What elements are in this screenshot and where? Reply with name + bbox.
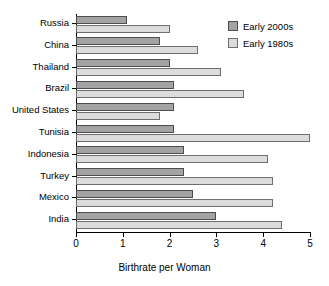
bar-early-1980s [76, 112, 160, 120]
x-axis-tick [123, 232, 124, 237]
x-axis-line [76, 232, 311, 233]
x-axis-tick [310, 232, 311, 237]
legend-item-early-1980s: Early 1980s [228, 36, 293, 50]
bar-group: Brazil [76, 79, 310, 101]
bar-early-1980s [76, 46, 198, 54]
legend-label-early-2000s: Early 2000s [243, 21, 293, 32]
chart-legend: Early 2000s Early 1980s [224, 15, 298, 54]
bar-early-2000s [76, 59, 170, 67]
bar-early-2000s [76, 146, 184, 154]
category-label: Indonesia [28, 148, 69, 159]
birthrate-bar-chart: RussiaChinaThailandBrazilUnited StatesTu… [0, 0, 329, 286]
category-label: Tunisia [39, 126, 69, 137]
bar-early-2000s [76, 190, 193, 198]
x-axis-tick [76, 232, 77, 237]
x-axis-tick-label: 3 [214, 238, 220, 250]
x-axis-tick [263, 232, 264, 237]
bar-early-1980s [76, 155, 268, 163]
x-axis-title: Birthrate per Woman [0, 262, 329, 273]
legend-label-early-1980s: Early 1980s [243, 38, 293, 49]
bar-early-2000s [76, 125, 174, 133]
x-axis-tick-label: 5 [307, 238, 313, 250]
x-axis-tick [216, 232, 217, 237]
bar-group: Tunisia [76, 123, 310, 145]
bar-early-2000s [76, 212, 216, 220]
x-axis-tick [170, 232, 171, 237]
category-label: China [44, 39, 69, 50]
bar-early-1980s [76, 25, 170, 33]
bar-group: India [76, 210, 310, 232]
x-axis-tick-label: 2 [167, 238, 173, 250]
category-label: Brazil [45, 82, 69, 93]
legend-item-early-2000s: Early 2000s [228, 19, 293, 33]
bar-early-1980s [76, 90, 244, 98]
x-axis-tick-label: 0 [73, 238, 79, 250]
bar-group: United States [76, 101, 310, 123]
x-axis-tick-label: 4 [260, 238, 266, 250]
bar-early-2000s [76, 168, 184, 176]
category-label: Thailand [33, 61, 69, 72]
bar-early-1980s [76, 199, 273, 207]
category-label: India [48, 213, 69, 224]
bar-group: Thailand [76, 58, 310, 80]
category-label: Turkey [40, 170, 69, 181]
category-label: Russia [40, 17, 69, 28]
bar-group: Turkey [76, 167, 310, 189]
bar-early-2000s [76, 16, 127, 24]
category-label: United States [12, 104, 69, 115]
bar-early-1980s [76, 221, 282, 229]
bar-early-1980s [76, 177, 273, 185]
legend-swatch-icon-early-1980s [228, 38, 238, 48]
bar-group: Mexico [76, 188, 310, 210]
x-axis-tick-label: 1 [120, 238, 126, 250]
bar-early-2000s [76, 103, 174, 111]
bar-early-1980s [76, 68, 221, 76]
category-label: Mexico [39, 191, 69, 202]
bar-early-2000s [76, 37, 160, 45]
bar-early-2000s [76, 81, 174, 89]
bar-group: Indonesia [76, 145, 310, 167]
legend-swatch-icon-early-2000s [228, 21, 238, 31]
bar-early-1980s [76, 134, 310, 142]
